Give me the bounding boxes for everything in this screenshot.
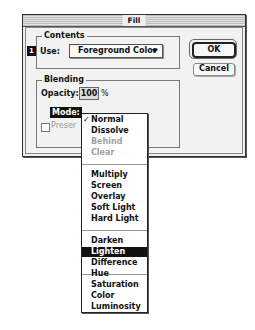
ok-button[interactable]: OK — [192, 42, 236, 58]
window-title: Fill — [123, 15, 146, 26]
title-bar[interactable]: Fill — [23, 15, 245, 27]
menu-item-dissolve[interactable]: Dissolve — [82, 126, 147, 136]
menu-item-hue[interactable]: Hue — [82, 269, 147, 279]
menu-item-luminosity[interactable]: Luminosity — [82, 302, 147, 311]
step-badge: 1 — [27, 46, 36, 56]
preserve-transparency-label[interactable]: Preser — [51, 121, 76, 131]
menu-item-hard-light[interactable]: Hard Light — [82, 214, 147, 224]
percent-unit: % — [101, 89, 109, 99]
menu-separator — [82, 164, 147, 165]
use-select-value: Foreground Color — [78, 46, 157, 56]
use-select[interactable]: Foreground Color — [69, 44, 163, 58]
menu-item-lighten[interactable]: Lighten — [82, 247, 147, 257]
menu-item-overlay[interactable]: Overlay — [82, 192, 147, 202]
menu-item-color[interactable]: Color — [82, 291, 147, 301]
menu-item-multiply[interactable]: Multiply — [82, 170, 147, 180]
opacity-label: Opacity: — [41, 89, 79, 99]
blending-group-label: Blending — [42, 75, 86, 85]
menu-item-soft-light[interactable]: Soft Light — [82, 203, 147, 213]
mode-popup-menu: ✓ Normal Dissolve Behind Clear Multiply … — [81, 113, 148, 313]
checkmark-icon: ✓ — [83, 115, 90, 125]
menu-item-difference[interactable]: Difference — [82, 258, 147, 268]
menu-separator — [82, 230, 147, 231]
contents-group: Contents 1 Use: Foreground Color — [36, 36, 180, 69]
use-label: Use: — [40, 47, 60, 57]
preserve-transparency-checkbox[interactable] — [41, 123, 50, 132]
contents-group-label: Contents — [42, 31, 87, 41]
cancel-button[interactable]: Cancel — [193, 63, 235, 76]
menu-item-normal[interactable]: ✓ Normal — [82, 115, 147, 125]
menu-item-screen[interactable]: Screen — [82, 181, 147, 191]
menu-item-clear: Clear — [82, 148, 147, 158]
menu-item-behind: Behind — [82, 137, 147, 147]
menu-item-darken[interactable]: Darken — [82, 236, 147, 246]
menu-item-saturation[interactable]: Saturation — [82, 280, 147, 290]
mode-label[interactable]: Mode: — [50, 107, 82, 118]
chevron-down-icon — [152, 49, 158, 53]
opacity-input[interactable]: 100 — [79, 87, 99, 100]
